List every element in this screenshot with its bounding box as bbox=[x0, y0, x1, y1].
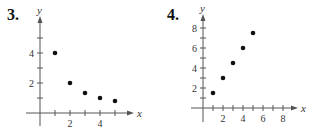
y-tick-label: 8 bbox=[192, 23, 197, 34]
x-axis-label: x bbox=[300, 102, 306, 114]
data-point bbox=[251, 31, 256, 36]
x-axis-arrow-icon bbox=[291, 106, 298, 111]
data-point bbox=[53, 51, 58, 56]
x-tick-label: 4 bbox=[241, 113, 246, 124]
scatter-plots: xy2424xy24682468 bbox=[0, 0, 316, 137]
data-point bbox=[98, 96, 103, 101]
x-axis-arrow-icon bbox=[127, 111, 134, 116]
y-tick-label: 6 bbox=[192, 43, 197, 54]
data-point bbox=[113, 99, 118, 104]
y-tick-label: 2 bbox=[192, 83, 197, 94]
y-tick-label: 2 bbox=[29, 78, 34, 89]
y-tick-label: 4 bbox=[192, 63, 197, 74]
y-axis-arrow-icon bbox=[38, 16, 43, 23]
data-point bbox=[83, 91, 88, 96]
data-point bbox=[68, 81, 73, 86]
data-point bbox=[231, 61, 236, 66]
data-point bbox=[211, 91, 216, 96]
x-tick-label: 8 bbox=[281, 113, 286, 124]
y-axis-label: y bbox=[199, 2, 205, 14]
data-point bbox=[221, 76, 226, 81]
x-tick-label: 2 bbox=[221, 113, 226, 124]
y-tick-label: 4 bbox=[29, 48, 34, 59]
y-axis-arrow-icon bbox=[201, 14, 206, 21]
x-tick-label: 4 bbox=[98, 118, 103, 129]
x-tick-label: 2 bbox=[68, 118, 73, 129]
data-point bbox=[241, 46, 246, 51]
y-axis-label: y bbox=[36, 4, 42, 16]
x-tick-label: 6 bbox=[261, 113, 266, 124]
x-axis-label: x bbox=[136, 107, 142, 119]
